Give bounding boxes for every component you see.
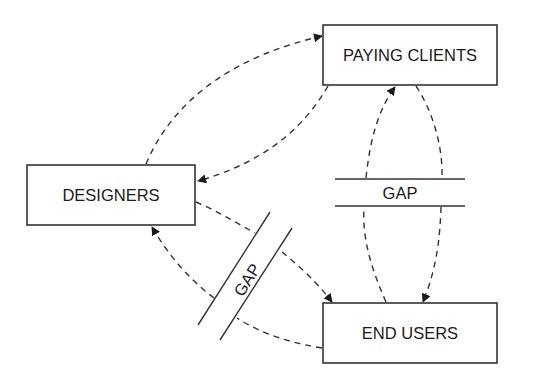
edge-designers-to-users-right (282, 252, 332, 302)
node-designers: DESIGNERS (27, 165, 195, 225)
gap-label: GAP (383, 184, 418, 202)
edge-users-to-clients-lower (364, 207, 386, 302)
edge-designers-to-users-left (196, 202, 255, 233)
edge-users-to-designers-right (237, 318, 322, 348)
gap-diagram: PAYING CLIENTS DESIGNERS END USERS GAP G… (0, 0, 535, 378)
gap-boundary-right (220, 228, 292, 340)
node-label: DESIGNERS (62, 186, 159, 204)
gap-designers-users: GAP (198, 212, 292, 340)
edge-designers-to-clients (146, 36, 322, 164)
node-label: PAYING CLIENTS (343, 46, 477, 64)
gap-clients-users: GAP (335, 179, 465, 206)
node-end-users: END USERS (323, 303, 497, 363)
edge-users-to-designers-left (152, 227, 214, 298)
node-paying-clients: PAYING CLIENTS (323, 25, 497, 85)
edge-clients-to-designers (198, 86, 328, 181)
edge-clients-to-users-lower (423, 207, 441, 302)
node-label: END USERS (362, 324, 458, 342)
edge-users-to-clients-upper (366, 87, 395, 178)
edge-clients-to-users-upper (416, 86, 442, 178)
